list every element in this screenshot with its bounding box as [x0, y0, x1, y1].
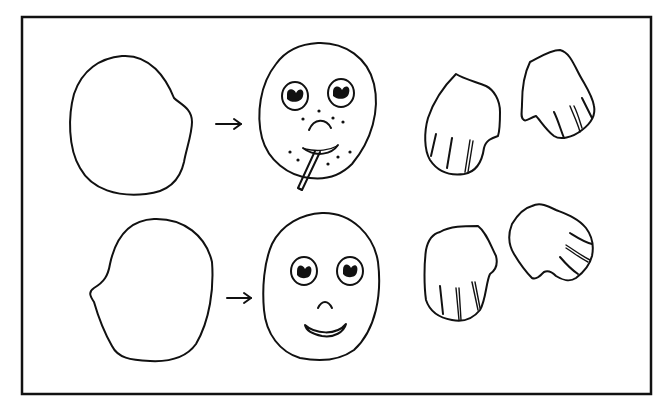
freckles	[288, 109, 351, 165]
hand-bottom-2	[509, 204, 593, 280]
face-smiling	[263, 213, 379, 360]
face-sad-smoker	[259, 43, 376, 190]
figure-canvas	[0, 0, 670, 416]
hand-bottom-1	[425, 226, 497, 321]
left-eye-icon	[282, 82, 308, 110]
bottom-row	[90, 204, 593, 361]
hand-top-1	[425, 74, 500, 174]
right-eye-icon	[337, 257, 363, 285]
cigarette-icon	[298, 151, 320, 190]
right-eye-icon	[328, 79, 354, 107]
arrow-right-icon-top	[216, 119, 241, 129]
top-row	[70, 43, 594, 195]
frown-nose-icon	[309, 121, 331, 130]
head-outline-top	[70, 56, 192, 195]
figure-frame	[22, 17, 651, 394]
smile-icon	[305, 324, 346, 336]
left-eye-icon	[291, 257, 317, 285]
hand-top-2	[522, 50, 595, 138]
face-outline	[263, 213, 379, 360]
head-outline-bottom	[90, 219, 212, 361]
nose-icon	[318, 302, 332, 308]
arrow-right-icon-bottom	[227, 293, 251, 303]
